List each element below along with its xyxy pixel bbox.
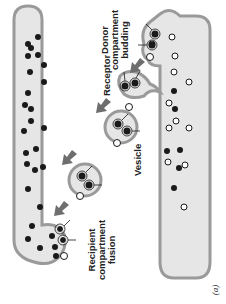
free-vesicle-1 [105,111,140,147]
recipient-label-3: fusion [106,236,117,265]
arrow-icon [130,58,145,73]
panel-label: (a) [210,285,220,296]
budding-vesicle [119,71,160,111]
donor-label-3: budding [119,21,130,59]
vesicle-transport-diagram: Donor compartment budding Receptor Vesic… [0,0,226,304]
arrow-icon [96,98,111,113]
arrow-icon [54,201,69,216]
vesicle-label: Vesicle [132,144,143,176]
receptor-label: Receptor [101,55,112,96]
arrow-icon [62,150,77,165]
free-vesicle-2 [69,164,102,200]
donor-compartment [143,10,210,278]
